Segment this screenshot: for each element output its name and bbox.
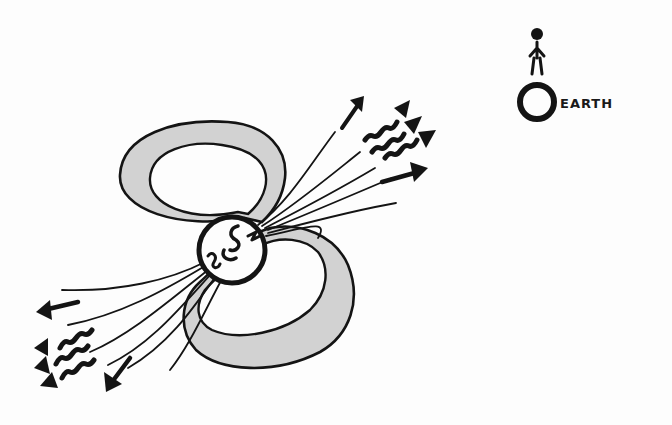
earth-scale-reference: EARTH	[520, 28, 613, 119]
earth-label: EARTH	[560, 96, 613, 111]
jet-arrows-lower-left	[34, 300, 130, 392]
upper-field-lobe	[120, 121, 285, 222]
wavy-arrow-icon	[385, 130, 436, 158]
arrow-icon	[104, 358, 130, 392]
arrow-icon	[342, 96, 364, 128]
illustration: EARTH	[0, 0, 672, 425]
person-icon	[530, 28, 544, 74]
arrow-icon	[36, 300, 78, 320]
earth-icon	[520, 85, 554, 119]
central-star	[199, 217, 265, 283]
diagram-canvas: EARTH	[0, 0, 672, 425]
wavy-arrow-icon	[40, 360, 94, 388]
arrow-icon	[382, 162, 428, 182]
jet-arrows-upper-right	[342, 96, 436, 182]
